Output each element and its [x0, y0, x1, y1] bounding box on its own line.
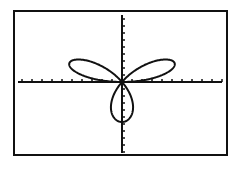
calculator-graph-screen: [0, 0, 238, 169]
